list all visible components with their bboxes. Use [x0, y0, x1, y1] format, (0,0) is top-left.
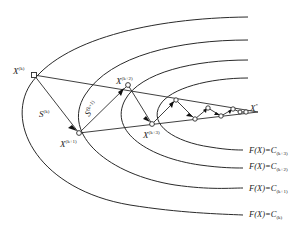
label-xk3: X(k+3) — [142, 130, 160, 140]
node-6 — [206, 106, 210, 110]
node-7 — [219, 114, 223, 118]
contour-label-ck1: F(X)=C(k+1) — [248, 183, 288, 194]
arrow-sk3 — [169, 101, 174, 108]
steepest-descent-diagram: X(k) X(k+1) X(k+2) X(k+3) X* S(k) S(k+1)… — [0, 0, 305, 236]
contour-ck2 — [121, 60, 248, 168]
node-xk — [32, 73, 37, 78]
contour-ck3 — [157, 78, 248, 150]
node-xk3 — [150, 122, 155, 127]
contour-label-ck2: F(X)=C(k+2) — [248, 161, 288, 172]
node-4 — [174, 98, 178, 102]
node-xstar — [244, 110, 248, 114]
lower-envelope-line — [79, 112, 258, 133]
contour-ck — [22, 17, 248, 215]
node-8 — [231, 107, 235, 111]
arrow-sk4 — [186, 113, 193, 117]
label-xk: X(k) — [12, 66, 25, 76]
contour-label-ck: F(X)=C(k) — [248, 209, 283, 220]
node-xk1 — [77, 131, 82, 136]
label-sk: S(k) — [39, 109, 50, 119]
label-xk1: X(k+1) — [59, 139, 77, 149]
node-5 — [193, 117, 197, 121]
node-xk2 — [126, 83, 131, 88]
node-9 — [238, 110, 242, 114]
contour-label-ck3: F(X)=C(k+3) — [248, 145, 288, 156]
